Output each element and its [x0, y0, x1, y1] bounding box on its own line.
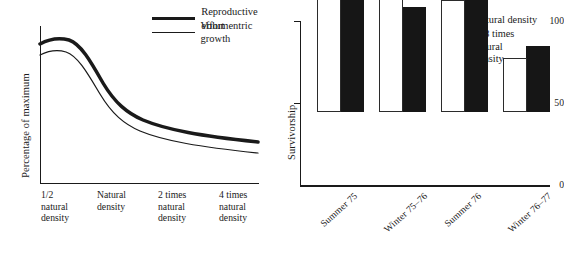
two-panel-figure: Percentage of maximum Reproductive effor…: [0, 0, 564, 259]
line-chart-panel: Percentage of maximum Reproductive effor…: [0, 0, 282, 259]
bar-natural-density-winter-75-76: [379, 0, 403, 112]
left-x-category-2-times: 2 times natural density: [158, 189, 186, 224]
left-y-axis-label: Percentage of maximum: [20, 73, 31, 178]
bar-natural-density-summer-75: [317, 0, 341, 112]
y-tick-mark-50: [294, 103, 300, 104]
left-legend: Reproductive effort Volumentric growth: [152, 12, 282, 39]
left-x-category-natural: Natural density: [97, 189, 126, 212]
bar-4-8-times-summer-76: [464, 0, 488, 112]
bar-chart-panel: Survivorship 100 50 0 Summer 75 Winter 7…: [282, 0, 564, 259]
bar-x-category-winter-76-77: Winter 76–77: [506, 190, 554, 235]
bar-x-category-winter-75-76: Winter 75–76: [382, 190, 430, 235]
left-plot-area: [40, 26, 262, 184]
thin-line-swatch-icon: [152, 32, 195, 33]
thick-line-swatch-icon: [152, 17, 195, 20]
legend-item-volumentric-growth: Volumentric growth: [152, 26, 282, 40]
bar-natural-density-winter-76-77: [503, 58, 527, 112]
bar-4-8-times-summer-75: [340, 0, 364, 112]
bar-x-category-summer-76: Summer 76: [442, 190, 483, 229]
bar-natural-density-summer-76: [441, 0, 465, 112]
y-tick-mark-100: [294, 21, 300, 22]
left-x-category-4-times: 4 times natural density: [219, 189, 247, 224]
legend-label-volumentric-growth: Volumentric growth: [201, 19, 282, 46]
bar-x-category-summer-75: Summer 75: [318, 190, 359, 229]
left-x-category-half-natural: 1/2 natural density: [41, 189, 69, 224]
right-y-axis-label: Survivorship: [286, 105, 297, 160]
bar-4-8-times-winter-75-76: [402, 7, 426, 112]
bar-4-8-times-winter-76-77: [526, 46, 550, 112]
series-reproductive-effort-line: [40, 39, 258, 142]
